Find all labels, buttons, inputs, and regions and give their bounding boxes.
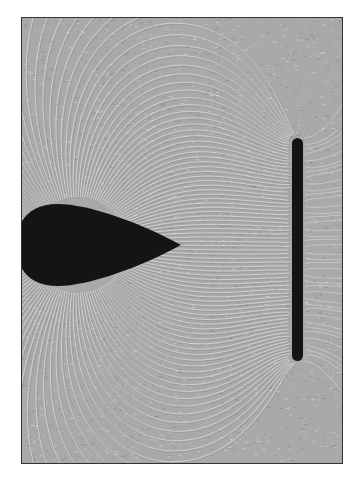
field-lines — [22, 18, 343, 464]
field-line-figure — [21, 17, 343, 464]
vertical-bar-conductor — [292, 138, 303, 361]
